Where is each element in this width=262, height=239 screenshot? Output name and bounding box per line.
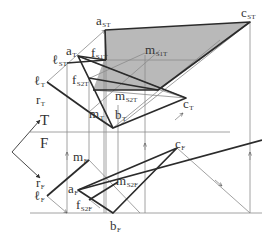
label-a-f: aF xyxy=(68,182,78,195)
label-m-s1t: mS1T xyxy=(145,43,167,56)
label-a-t: aT xyxy=(66,44,77,57)
label-b-t: bT xyxy=(115,108,126,121)
label-l-t: ℓT xyxy=(34,74,45,87)
label-b-f: bF xyxy=(110,219,121,232)
label-l-f: ℓF xyxy=(34,189,45,202)
label-c-t: cT xyxy=(183,97,194,110)
label-c-st: cST xyxy=(241,6,255,19)
light-direction-arrows xyxy=(12,120,40,178)
label-f-s2t: fS2T xyxy=(72,73,89,86)
label-f-s2f: fS2F xyxy=(76,198,92,211)
label-m-s2t: mS2T xyxy=(115,89,137,102)
label-l-st: ℓST xyxy=(52,53,67,66)
label-a-st: aST xyxy=(96,14,110,27)
fold-label-t: T xyxy=(40,113,49,128)
label-m-t: mT xyxy=(89,107,104,120)
label-m-s2f: mS2F xyxy=(116,174,138,187)
label-c-f: cF xyxy=(175,137,185,150)
label-r-t: rT xyxy=(36,93,45,106)
fold-label-f: F xyxy=(40,136,48,151)
label-m-f: mF xyxy=(73,150,88,163)
label-f-s1t: fS1T xyxy=(91,46,108,59)
